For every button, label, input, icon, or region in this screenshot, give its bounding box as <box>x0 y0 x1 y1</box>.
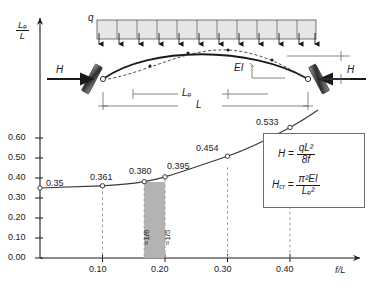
equation-h-numerator: qL² <box>297 143 315 154</box>
equation-h-lhs: H <box>278 148 285 159</box>
y-tick-0-50: 0.50 <box>8 152 26 162</box>
stiffness-label: EI <box>234 62 243 73</box>
y-tick-0-20: 0.20 <box>8 212 26 222</box>
point-label-4: 0.454 <box>196 143 219 153</box>
l-span-label: L <box>196 99 202 110</box>
x-axis-title: f/L <box>335 264 346 275</box>
thrust-label-right: H <box>347 64 354 75</box>
y-tick-0-40: 0.40 <box>8 172 26 182</box>
equation-h-equals: = <box>288 148 294 159</box>
equation-hcr-equals: = <box>288 179 294 190</box>
arch-curve <box>103 54 308 79</box>
x-tick-0-30: 0.30 <box>214 264 232 274</box>
ei-leader <box>250 63 285 78</box>
l-dimension <box>98 92 313 110</box>
equation-hcr: Hcr = π²EI Lₑ² <box>272 174 320 196</box>
band-label-right: ≈1/5 <box>163 229 172 245</box>
y-tick-0-10: 0.10 <box>8 232 26 242</box>
point-label-0: 0.35 <box>46 178 64 188</box>
band-label-left: ≈1/6 <box>142 229 151 245</box>
equation-hcr-subscript: cr <box>279 183 285 190</box>
equation-hcr-denominator: Lₑ² <box>296 185 319 197</box>
equation-h-denominator: 8f <box>297 154 315 166</box>
x-tick-0-40: 0.40 <box>276 264 294 274</box>
equation-h: H = qL² 8f <box>278 143 315 165</box>
y-tick-0-30: 0.30 <box>8 192 26 202</box>
point-label-5: 0.533 <box>256 117 279 127</box>
point-label-3: 0.395 <box>167 161 190 171</box>
load-label: q <box>88 12 94 23</box>
y-tick-0-00: 0.00 <box>8 252 26 262</box>
x-tick-0-20: 0.20 <box>151 264 169 274</box>
y-axis-ticks <box>35 138 43 258</box>
thrust-label-left: H <box>56 64 63 75</box>
le-span-label: Lₑ <box>182 87 191 98</box>
y-axis-numerator: Lₑ <box>16 20 29 30</box>
point-label-1: 0.361 <box>90 172 113 182</box>
y-tick-0-60: 0.60 <box>8 132 26 142</box>
le-dimension <box>133 89 268 99</box>
shaded-band <box>144 182 165 258</box>
y-axis-denominator: L <box>16 30 29 41</box>
y-axis-title: Lₑ L <box>16 20 29 41</box>
point-label-2: 0.380 <box>129 166 152 176</box>
x-tick-0-10: 0.10 <box>89 264 107 274</box>
distributed-load-block <box>97 20 316 44</box>
equation-hcr-numerator: π²EI <box>296 174 319 185</box>
